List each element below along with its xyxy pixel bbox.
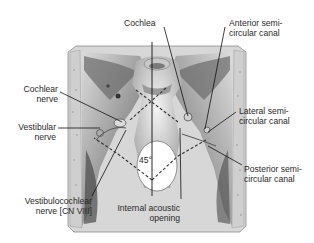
label-line: Posterior semi- [244,164,302,174]
label-line: nerve [4,132,56,142]
label-line: Vestibular [4,122,56,132]
label-line: nerve [CN VIII] [10,206,92,216]
label-anterior-semicircular-canal: Anterior semi- circular canal [229,18,282,38]
label-cochlea: Cochlea [124,18,156,28]
anatomy-diagram: Cochlea Anterior semi- circular canal Co… [0,0,314,243]
label-line: Anterior semi- [229,18,282,28]
label-line: circular canal [244,174,302,184]
label-vestibulocochlear-nerve: Vestibulocochlear nerve [CN VIII] [10,196,92,216]
label-line: Lateral semi- [239,106,290,116]
label-line: Cochlear [20,84,58,94]
label-posterior-semicircular-canal: Posterior semi- circular canal [244,164,302,184]
label-line: Vestibulocochlear [10,196,92,206]
foramen-magnum [137,141,177,191]
label-line: opening [112,213,180,223]
label-line: Internal acoustic [112,203,180,213]
label-line: nerve [20,94,58,104]
label-lateral-semicircular-canal: Lateral semi- circular canal [239,106,290,126]
label-cochlea-line1: Cochlea [124,18,156,28]
label-cochlear-nerve: Cochlear nerve [20,84,58,104]
label-line: circular canal [229,28,282,38]
label-line: circular canal [239,116,290,126]
angle-label: 45° [139,155,152,165]
label-internal-acoustic-opening: Internal acoustic opening [112,203,180,223]
label-vestibular-nerve: Vestibular nerve [4,122,56,142]
